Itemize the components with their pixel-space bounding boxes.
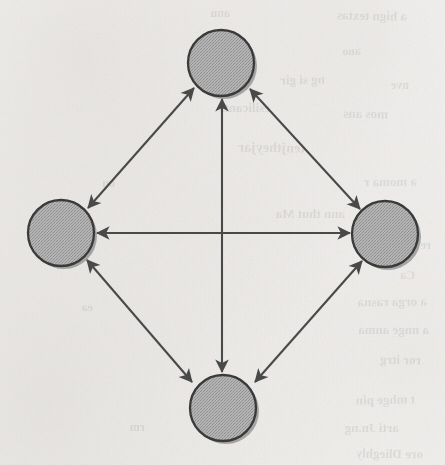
edge-bottom-right [255,261,362,382]
edge-left-bottom [87,260,192,382]
complete-graph-k4-figure [0,0,445,465]
edge-left-top [88,88,194,208]
node-right[interactable] [352,201,421,270]
node-left[interactable] [28,200,97,269]
diagram-page: a hign textasanuanothe rarnveng si girmo… [0,0,445,465]
node-top[interactable] [188,30,257,99]
edge-top-right [250,89,360,209]
node-bottom-body [190,375,256,441]
edges-layer [87,88,362,382]
node-bottom[interactable] [190,375,259,444]
node-right-body [352,201,418,267]
node-top-body [188,30,254,96]
node-left-body [28,200,94,266]
nodes-layer [28,30,421,444]
